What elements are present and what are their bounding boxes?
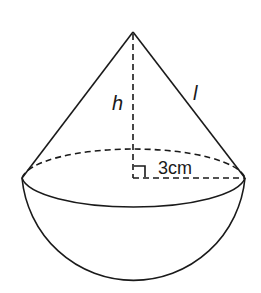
cone-right-slant-l [133, 32, 245, 178]
radius-label: 3cm [158, 158, 192, 178]
base-ellipse-back [22, 149, 245, 178]
slant-label: l [193, 82, 198, 104]
hemisphere-outline [22, 178, 245, 280]
right-angle-marker [134, 166, 145, 177]
base-ellipse-front [22, 178, 245, 207]
height-label: h [112, 92, 123, 114]
cone-hemisphere-diagram: h l 3cm [0, 0, 261, 293]
